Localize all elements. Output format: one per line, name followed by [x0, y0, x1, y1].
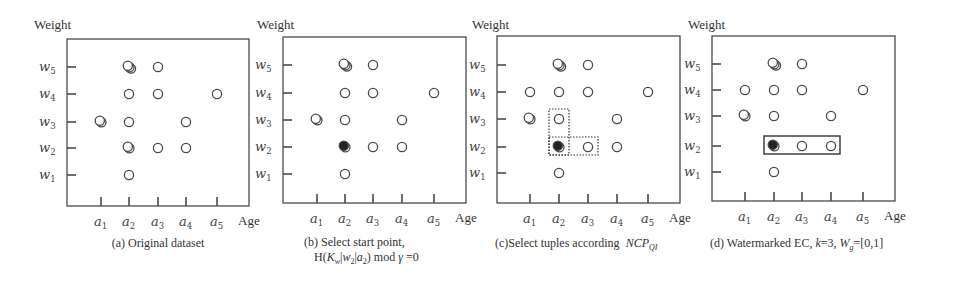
data-point [797, 141, 806, 150]
data-point [739, 110, 750, 121]
data-point [797, 85, 806, 94]
panel-d: Weight w1w2w3w4w5a1a2a3a4a5Age (d) Water… [0, 0, 958, 283]
data-point [826, 111, 835, 120]
x-axis-title: Age [884, 208, 906, 223]
data-point [769, 167, 778, 176]
data-point [740, 85, 749, 94]
data-point [826, 141, 835, 150]
data-point [797, 59, 806, 68]
x-tick-label: a4 [824, 209, 837, 226]
y-tick-label: w1 [684, 164, 701, 181]
y-tick-label: w4 [684, 82, 701, 99]
scatter-plot-d: w1w2w3w4w5a1a2a3a4a5Age [0, 0, 958, 230]
data-point [858, 85, 867, 94]
data-point [769, 85, 778, 94]
y-tick-label: w3 [684, 108, 701, 125]
x-tick-label: a2 [767, 209, 780, 226]
x-tick-label: a3 [795, 209, 808, 226]
data-point [769, 111, 778, 120]
start-point-marker [768, 140, 779, 151]
x-tick-label: a5 [856, 209, 869, 226]
y-tick-label: w5 [684, 56, 701, 73]
x-tick-label: a1 [738, 209, 751, 226]
caption-text: (d) Watermarked EC, k=3, Wg=[0,1] [710, 236, 883, 250]
caption-d: (d) Watermarked EC, k=3, Wg=[0,1] [710, 236, 940, 255]
data-point [768, 58, 780, 70]
y-tick-label: w2 [684, 138, 701, 155]
